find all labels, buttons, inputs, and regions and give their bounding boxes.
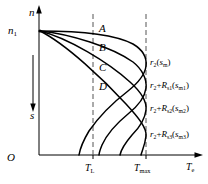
curve-point-label-C: C xyxy=(99,62,106,73)
slip-axis-label: s xyxy=(30,110,34,121)
curve-point-label-D: D xyxy=(99,81,107,92)
curve-point-label-B: B xyxy=(99,42,106,53)
y-axis-label: n xyxy=(29,7,35,18)
synchronous-speed-label: n1 xyxy=(8,25,17,36)
slip-direction-arrow xyxy=(30,55,35,112)
speed-torque-curve-figure: n n1 s O A B C D r2(sm) r2+Rs1(sm1) r2+R… xyxy=(0,0,208,184)
curve-equation-label-1: r2+Rs1(sm1) xyxy=(150,81,189,90)
y-axis xyxy=(36,5,42,155)
tick-label-Tmax: Tmax xyxy=(134,163,151,173)
tick-label-TL: TL xyxy=(85,163,94,173)
curve-point-label-A: A xyxy=(99,23,106,34)
origin-label: O xyxy=(7,152,15,163)
curve-equation-label-3: r2+Rs3(sm3) xyxy=(150,130,189,139)
curve-equation-label-2: r2+Rs2(sm2) xyxy=(150,104,189,113)
curve-equation-label-0: r2(sm) xyxy=(150,58,170,67)
x-axis-label: Te xyxy=(186,162,194,172)
